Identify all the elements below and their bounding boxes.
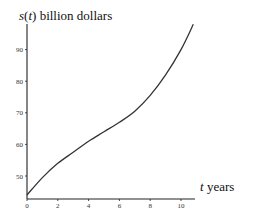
- chart: 50607080900246810 s(t) billion dollars t…: [0, 0, 253, 220]
- ticks: 50607080900246810: [16, 46, 185, 210]
- y-tick-label: 60: [16, 141, 24, 149]
- axes: [27, 24, 195, 199]
- y-tick-label: 90: [16, 46, 24, 54]
- y-tick-label: 80: [16, 78, 24, 86]
- x-tick-label: 2: [56, 202, 60, 210]
- x-tick-label: 6: [118, 202, 122, 210]
- x-axis-label: t years: [200, 179, 234, 194]
- x-tick-label: 0: [25, 202, 29, 210]
- x-tick-label: 4: [87, 202, 91, 210]
- data-curve: [27, 24, 193, 195]
- y-axis-label: s(t) billion dollars: [19, 8, 112, 23]
- x-tick-label: 8: [148, 202, 152, 210]
- y-tick-label: 50: [16, 173, 24, 181]
- x-tick-label: 10: [178, 202, 186, 210]
- y-tick-label: 70: [16, 109, 24, 117]
